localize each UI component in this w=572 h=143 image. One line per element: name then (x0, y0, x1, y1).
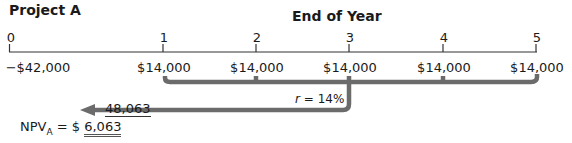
npv-result: NPVA = $ 6,063 (20, 119, 121, 140)
cash-flow: $14,000 (137, 60, 191, 75)
rate-symbol: r (295, 92, 300, 106)
year-label: 1 (160, 30, 168, 45)
year-label: 4 (440, 30, 448, 45)
cash-flow: $14,000 (510, 60, 564, 75)
discount-rate: r = 14% (295, 92, 344, 106)
cash-flow: −$42,000 (6, 60, 71, 75)
axis-ticks (10, 44, 537, 52)
cash-flow: $14,000 (417, 60, 471, 75)
year-label: 3 (346, 30, 354, 45)
npv-label: NPV (20, 119, 46, 134)
year-label: 0 (7, 30, 15, 45)
cash-flow: $14,000 (323, 60, 377, 75)
year-label: 5 (533, 30, 541, 45)
cash-flow: $14,000 (230, 60, 284, 75)
project-title: Project A (9, 2, 81, 18)
present-value: 48,063 (105, 101, 151, 117)
axis-title: End of Year (292, 8, 382, 24)
npv-equals: = $ (53, 119, 85, 134)
rate-value: = 14% (304, 92, 345, 106)
arrow-head-icon (80, 104, 95, 116)
npv-value: 6,063 (84, 119, 121, 137)
year-label: 2 (253, 30, 261, 45)
